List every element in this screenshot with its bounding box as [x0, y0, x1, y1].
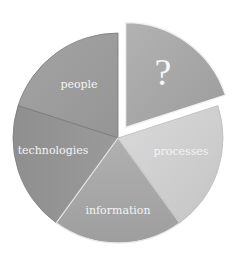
label-question: ?: [155, 51, 172, 93]
label-technologies: technologies: [18, 144, 89, 157]
label-people: people: [60, 78, 97, 91]
pie-chart: ? people technologies information proces…: [0, 0, 233, 256]
label-processes: processes: [153, 145, 208, 158]
label-information: information: [85, 204, 150, 217]
